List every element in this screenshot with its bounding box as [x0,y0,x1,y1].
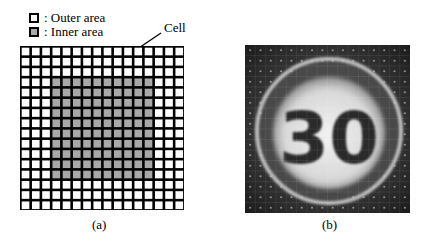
cell-feature-dot [342,207,344,209]
outer-cell [63,191,71,199]
cell-feature-dot [259,81,261,83]
inner-cell [104,99,112,107]
cell-feature-dot [362,196,364,198]
cell-feature-dot [270,186,272,188]
outer-cell [155,68,163,76]
cell-feature-dot [362,60,364,62]
outer-cell [114,48,122,56]
inner-cell [52,78,60,86]
outer-cell [165,201,173,209]
inner-cell [73,160,81,168]
inner-cell [134,171,142,179]
inner-cell [83,171,91,179]
outer-cell [165,140,173,148]
outer-cell [32,201,40,209]
outer-cell [22,150,30,158]
inner-cell [63,160,71,168]
cell-feature-dot [249,207,251,209]
inner-cell [104,171,112,179]
inner-cell [52,89,60,97]
inner-area-swatch [29,27,39,37]
outer-cell [83,181,91,189]
cell-feature-dot [280,70,282,72]
inner-cell [114,160,122,168]
inner-cell [134,109,142,117]
inner-cell [93,160,101,168]
inner-cell [73,109,81,117]
outer-cell [42,48,50,56]
inner-cell [93,78,101,86]
inner-cell [114,89,122,97]
outer-cell [63,58,71,66]
outer-cell [165,89,173,97]
cell-feature-dot [373,186,375,188]
inner-cell [104,160,112,168]
inner-cell [145,130,153,138]
cell-feature-dot [332,207,334,209]
inner-cell [73,130,81,138]
outer-cell [83,191,91,199]
cell-feature-dot [362,49,364,51]
cell-feature-dot [404,154,406,156]
outer-cell [22,181,30,189]
inner-cell [52,171,60,179]
cell-feature-dot [393,196,395,198]
cell-feature-dot [280,49,282,51]
cell-feature-dot [249,49,251,51]
outer-cell [155,191,163,199]
cell-feature-dot [404,102,406,104]
outer-cell [145,58,153,66]
cell-feature-dot [393,175,395,177]
outer-cell [155,89,163,97]
outer-cell [155,130,163,138]
outer-cell [134,201,142,209]
outer-cell [32,89,40,97]
cell-feature-dot [259,165,261,167]
outer-cell [155,119,163,127]
cell-feature-dot [393,91,395,93]
outer-cell [22,68,30,76]
outer-cell [22,140,30,148]
outer-cell [165,58,173,66]
cell-feature-dot [280,60,282,62]
cell-feature-dot [373,196,375,198]
cell-feature-dot [404,70,406,72]
inner-cell [63,171,71,179]
outer-cell [175,140,183,148]
outer-cell [104,48,112,56]
outer-cell [52,68,60,76]
outer-cell [42,99,50,107]
cell-feature-dot [393,102,395,104]
outer-cell [165,109,173,117]
inner-cell [52,109,60,117]
outer-cell [73,48,81,56]
cell-feature-dot [373,49,375,51]
cell-feature-dot [259,186,261,188]
cell-feature-dot [393,165,395,167]
cell-feature-dot [249,81,251,83]
inner-cell [114,130,122,138]
inner-cell [114,150,122,158]
inner-cell [83,89,91,97]
cell-feature-dot [393,60,395,62]
inner-cell [145,150,153,158]
cell-feature-dot [383,60,385,62]
outer-cell [32,140,40,148]
cell-feature-dot [290,207,292,209]
inner-cell [124,150,132,158]
inner-cell [73,78,81,86]
inner-cell [124,99,132,107]
cell-feature-dot [249,112,251,114]
cell-feature-dot [352,207,354,209]
outer-cell [42,160,50,168]
inner-cell [145,89,153,97]
outer-cell [175,150,183,158]
outer-cell [22,48,30,56]
inner-cell [145,99,153,107]
outer-cell [83,68,91,76]
outer-cell [175,181,183,189]
cell-feature-dot [270,60,272,62]
cell-feature-dot [259,112,261,114]
legend-label: : Outer area [44,13,105,23]
cell-feature-dot [332,49,334,51]
